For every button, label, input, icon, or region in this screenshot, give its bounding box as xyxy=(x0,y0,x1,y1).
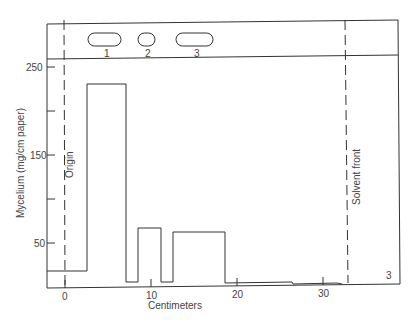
spot-2-icon xyxy=(138,33,155,46)
spot-3-label: 3 xyxy=(194,48,200,59)
corner-note: 3 xyxy=(386,270,392,281)
chart: 1 2 3 250 150 50 0 10 20 30 Origin Solve… xyxy=(0,0,416,325)
ytick-150: 150 xyxy=(30,150,47,161)
spot-3-icon xyxy=(176,33,213,46)
ytick-250: 250 xyxy=(26,62,43,73)
ytick-50: 50 xyxy=(34,238,46,249)
origin-label: Origin xyxy=(64,151,75,178)
axes xyxy=(47,20,400,288)
xtick-0: 0 xyxy=(62,291,68,302)
y-axis-label: Mycelium (mg/cm paper) xyxy=(15,108,26,218)
solvent-front-line xyxy=(345,20,348,283)
tick-labels: 250 150 50 0 10 20 30 xyxy=(26,62,330,302)
xtick-30: 30 xyxy=(318,288,330,299)
x-axis-label: Centimeters xyxy=(148,300,202,311)
solvent-front-label: Solvent front xyxy=(351,149,362,205)
spot-1-label: 1 xyxy=(104,48,110,59)
histogram-series xyxy=(47,84,342,284)
xtick-20: 20 xyxy=(232,289,244,300)
spot-1-icon xyxy=(88,33,121,46)
spot-2-label: 2 xyxy=(145,48,151,59)
